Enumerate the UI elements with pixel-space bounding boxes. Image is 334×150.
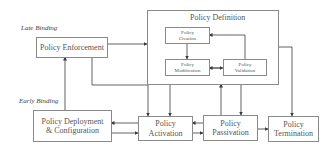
policy-deployment-configuration-node: Policy Deployment & Configuration — [33, 110, 112, 142]
policy-deployment-label-line2: & Configuration — [46, 126, 99, 135]
policy-creation-label-line2: Creation — [179, 36, 196, 42]
early-binding-label: Early Binding — [19, 97, 58, 105]
policy-definition-title: Policy Definition — [190, 13, 245, 22]
policy-modification-label-line2: Modification — [174, 68, 200, 74]
policy-deployment-label-line1: Policy Deployment — [42, 117, 104, 126]
late-binding-label: Late Binding — [21, 24, 57, 32]
policy-modification-node: Policy Modification — [165, 59, 210, 76]
policy-enforcement-node: Policy Enforcement — [36, 37, 108, 58]
policy-enforcement-label: Policy Enforcement — [40, 43, 104, 52]
policy-passivation-label-line2: Passivation — [212, 128, 248, 137]
policy-termination-label-line2: Termination — [274, 129, 313, 138]
policy-lifecycle-diagram: Late Binding Policy Enforcement Policy D… — [0, 0, 334, 150]
policy-termination-node: Policy Termination — [268, 116, 319, 142]
policy-activation-label-line1: Policy — [155, 119, 175, 128]
policy-passivation-label-line1: Policy — [220, 119, 240, 128]
policy-termination-label-line1: Policy — [283, 120, 303, 129]
policy-creation-node: Policy Creation — [165, 27, 210, 44]
policy-activation-label-line2: Activation — [149, 129, 183, 138]
policy-validation-label-line2: Validation — [235, 68, 256, 74]
policy-validation-node: Policy Validation — [223, 59, 267, 76]
policy-activation-node: Policy Activation — [138, 116, 193, 141]
policy-passivation-node: Policy Passivation — [203, 115, 258, 141]
